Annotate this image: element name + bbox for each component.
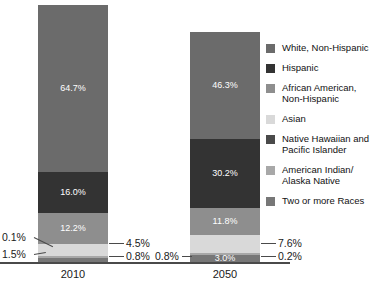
leader-line-2050-american-indian [182, 256, 192, 257]
callout-2010-american-indian: 0.8% [126, 251, 150, 262]
legend-item[interactable]: African American, Non-Hispanic [266, 82, 384, 104]
callout-2050-american-indian: 0.8% [155, 251, 179, 262]
stacked-bar-chart: 64.7%16.0%12.2%4.5%0.1%0.8%1.5% 46.3%30.… [0, 0, 384, 288]
legend-item[interactable]: Hispanic [266, 62, 384, 73]
legend-swatch-icon [266, 84, 275, 93]
bar-segment-hispanic[interactable]: 30.2% [190, 139, 260, 209]
legend-swatch-icon [266, 64, 275, 73]
legend-swatch-icon [266, 115, 275, 124]
bar-segment-white[interactable]: 46.3% [190, 32, 260, 139]
leader-line-2050-native-hawaiian [261, 256, 276, 257]
legend-item-label: American Indian/ Alaska Native [282, 164, 353, 186]
legend-item[interactable]: White, Non-Hispanic [266, 42, 384, 53]
x-tick-label-2050: 2050 [190, 268, 260, 280]
bar-segment-african[interactable]: 11.8% [190, 208, 260, 235]
leader-line-2010-asian [109, 243, 124, 244]
legend-item-label: Native Hawaiian and Pacific Islander [282, 133, 369, 155]
legend-item-label: Asian [282, 113, 306, 124]
segment-value-label: 3.0% [215, 255, 236, 262]
segment-value-label: 30.2% [212, 169, 238, 178]
bar-segment-twoplus[interactable]: 3.0% [190, 255, 260, 262]
segment-value-label: 12.2% [60, 224, 86, 233]
legend-item[interactable]: American Indian/ Alaska Native [266, 164, 384, 186]
callout-2010-native-hawaiian: 0.1% [2, 232, 26, 243]
legend-swatch-icon [266, 166, 275, 175]
legend-item-label: African American, Non-Hispanic [282, 82, 356, 104]
legend-item[interactable]: Asian [266, 113, 384, 124]
bar-segment-african[interactable]: 12.2% [38, 213, 108, 244]
callout-2010-asian: 4.5% [126, 238, 150, 249]
legend-swatch-icon [266, 44, 275, 53]
segment-value-label: 46.3% [212, 81, 238, 90]
legend-item-label: White, Non-Hispanic [282, 42, 369, 53]
bar-2010[interactable]: 64.7%16.0%12.2%4.5%0.1%0.8%1.5% [38, 5, 108, 262]
leader-line-2010-american-indian [109, 256, 124, 257]
legend-item-label: Hispanic [282, 62, 318, 73]
bar-segment-asian[interactable]: 4.5% [38, 244, 108, 256]
legend-item-label: Two or more Races [282, 195, 364, 206]
legend-item[interactable]: Native Hawaiian and Pacific Islander [266, 133, 384, 155]
plot-area: 64.7%16.0%12.2%4.5%0.1%0.8%1.5% 46.3%30.… [0, 0, 290, 288]
bar-segment-hispanic[interactable]: 16.0% [38, 172, 108, 213]
legend-swatch-icon [266, 135, 275, 144]
bar-segment-white[interactable]: 64.7% [38, 5, 108, 172]
segment-value-label: 64.7% [60, 84, 86, 93]
callout-2050-native-hawaiian: 0.2% [278, 251, 302, 262]
callout-2050-asian: 7.6% [278, 238, 302, 249]
callout-2010-two-or-more: 1.5% [2, 249, 26, 260]
segment-value-label: 11.8% [213, 217, 238, 226]
x-tick-label-2010: 2010 [38, 268, 108, 280]
legend-item[interactable]: Two or more Races [266, 195, 384, 206]
bar-segment-asian[interactable]: 7.6% [190, 235, 260, 252]
bar-2050[interactable]: 46.3%30.2%11.8%7.6%0.2%0.8%3.0% [190, 32, 260, 262]
leader-line-2050-asian [261, 243, 276, 244]
legend-swatch-icon [266, 197, 275, 206]
segment-value-label: 16.0% [60, 188, 86, 197]
baseline-axis [0, 262, 290, 264]
legend: White, Non-HispanicHispanicAfrican Ameri… [266, 42, 384, 215]
